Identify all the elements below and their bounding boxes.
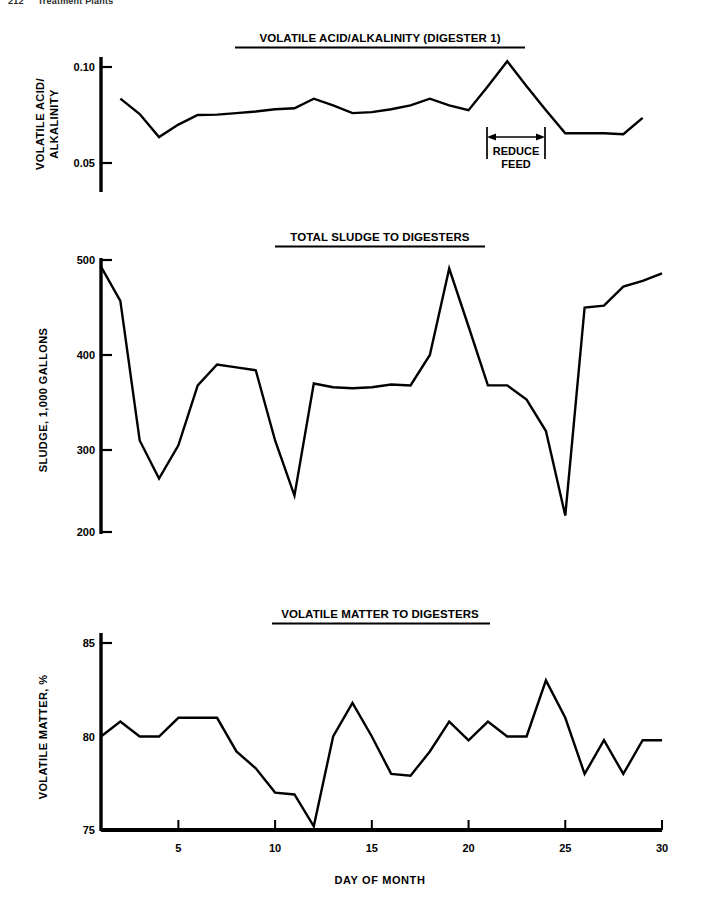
chart-3-tick-label-85: 85 (83, 637, 95, 649)
chart-3-title: VOLATILE MATTER TO DIGESTERS (281, 608, 479, 620)
chart-2-tick-label-500: 500 (77, 254, 95, 266)
x-axis-tick-label-30: 30 (656, 842, 668, 854)
x-axis-tick-labels: 51015202530 (175, 842, 668, 854)
annot-arrowhead-right (536, 133, 545, 140)
chart-1-tick-label-005: 0.05 (74, 157, 95, 169)
chart-3-tick-label-75: 75 (83, 824, 95, 836)
annot-label-line2: FEED (501, 158, 530, 170)
x-axis-tick-label-10: 10 (269, 842, 281, 854)
figure-page: 212Treatment Plants VOLATILE ACID/ALKALI… (0, 0, 701, 908)
chart-1-tick-label-010: 0.10 (74, 61, 95, 73)
chart-volatile-acid-alkalinity: VOLATILE ACID/ALKALINITY (DIGESTER 1) VO… (34, 32, 643, 192)
chart-3-y-axis-label: VOLATILE MATTER, % (37, 675, 49, 800)
chart-1-reduce-feed-annotation: REDUCE FEED (487, 127, 545, 170)
chart-1-y-axis-label-line1: VOLATILE ACID/ (34, 78, 46, 170)
chart-3-tick-label-80: 80 (83, 731, 95, 743)
annot-arrowhead-left (487, 133, 496, 140)
x-axis-tick-label-5: 5 (175, 842, 181, 854)
x-axis-title: DAY OF MONTH (335, 874, 426, 886)
x-axis-tick-label-20: 20 (462, 842, 474, 854)
chart-2-title: TOTAL SLUDGE TO DIGESTERS (290, 231, 470, 243)
chart-2-data-line (101, 267, 662, 516)
annot-label-line1: REDUCE (493, 145, 539, 157)
charts-figure: VOLATILE ACID/ALKALINITY (DIGESTER 1) VO… (0, 0, 701, 908)
chart-total-sludge-to-digesters: TOTAL SLUDGE TO DIGESTERS SLUDGE, 1,000 … (37, 231, 662, 538)
chart-1-data-line (120, 61, 642, 137)
x-axis-tick-label-25: 25 (559, 842, 571, 854)
chart-1-y-axis-label-line2: ALKALINITY (48, 89, 60, 159)
x-axis-tick-label-15: 15 (366, 842, 378, 854)
chart-2-y-axis-label: SLUDGE, 1,000 GALLONS (37, 328, 49, 473)
chart-3-data-line (101, 680, 662, 826)
chart-2-tick-label-200: 200 (77, 526, 95, 538)
chart-2-tick-label-300: 300 (77, 444, 95, 456)
chart-1-title: VOLATILE ACID/ALKALINITY (DIGESTER 1) (259, 32, 500, 44)
chart-2-tick-label-400: 400 (77, 349, 95, 361)
chart-volatile-matter-to-digesters: VOLATILE MATTER TO DIGESTERS VOLATILE MA… (37, 608, 668, 886)
